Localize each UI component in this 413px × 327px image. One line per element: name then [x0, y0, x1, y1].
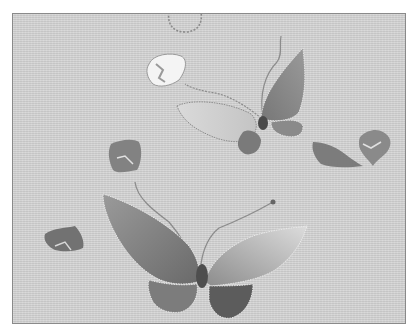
embroidery-photo — [12, 13, 406, 324]
heart-petal — [359, 130, 390, 166]
embroidery-artwork — [13, 14, 406, 324]
lower-butterfly — [103, 182, 307, 318]
square-petal — [109, 140, 141, 172]
upper-butterfly — [177, 36, 305, 154]
leaf-petal — [312, 142, 363, 167]
outline-petal — [169, 14, 202, 32]
white-petal — [147, 54, 186, 86]
small-petal — [44, 226, 83, 251]
